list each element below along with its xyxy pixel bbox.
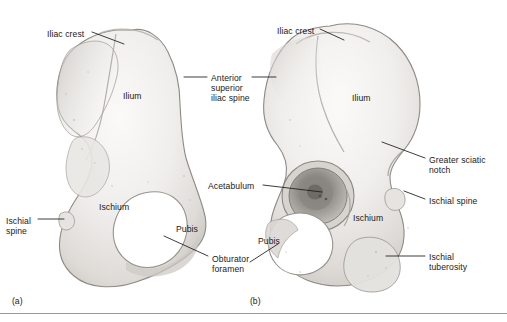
label-obturator-foramen: Obturatorforamen: [212, 254, 249, 274]
asis-line-1: Anterior: [211, 73, 242, 83]
label-acetabulum: Acetabulum: [208, 181, 254, 191]
obturator-foramen-line-2: foramen: [212, 264, 244, 274]
label-iliac-crest-b: Iliac crest: [277, 26, 314, 36]
ischial-tuberosity-line-2: tuberosity: [429, 262, 467, 272]
greater-sciatic-notch-line-1: Greater sciatic: [429, 155, 486, 165]
label-iliac-crest-a: Iliac crest: [47, 29, 84, 39]
ischial-tuberosity-line-1: Ischial: [429, 252, 454, 262]
greater-sciatic-notch-line-2: notch: [429, 165, 450, 175]
leader-ischial-spine-b: [404, 191, 425, 199]
label-pubis-a: Pubis: [176, 224, 198, 234]
hip-bone-medial-view: [57, 29, 206, 287]
anatomy-figure: Iliac crest Ilium Anteriorsuperioriliac …: [0, 0, 507, 322]
ischial-spine-a-line-1: Ischial: [6, 216, 31, 226]
label-ischium-a: Ischium: [99, 202, 129, 212]
panel-letter-a: (a): [12, 296, 23, 306]
label-ischial-spine-a: Ischialspine: [6, 216, 31, 236]
label-ischium-b: Ischium: [353, 213, 383, 223]
label-anterior-superior-iliac-spine: Anteriorsuperioriliac spine: [211, 73, 250, 104]
ischial-spine-b-bump: [385, 188, 405, 210]
asis-line-3: iliac spine: [211, 93, 250, 103]
ischial-spine-a-bump: [59, 212, 75, 230]
ischial-spine-a-line-2: spine: [6, 226, 27, 236]
hip-bone-lateral-view: [264, 24, 420, 292]
label-greater-sciatic-notch: Greater sciaticnotch: [429, 155, 486, 175]
label-ilium-a: Ilium: [123, 91, 142, 101]
obturator-foramen-line-1: Obturator: [212, 254, 249, 264]
panel-letter-b: (b): [250, 296, 261, 306]
label-ischial-spine-b: Ischial spine: [429, 196, 477, 206]
label-ischial-tuberosity: Ischialtuberosity: [429, 252, 467, 272]
label-pubis-b: Pubis: [258, 236, 280, 246]
label-ilium-b: Ilium: [352, 93, 371, 103]
asis-line-2: superior: [211, 83, 243, 93]
